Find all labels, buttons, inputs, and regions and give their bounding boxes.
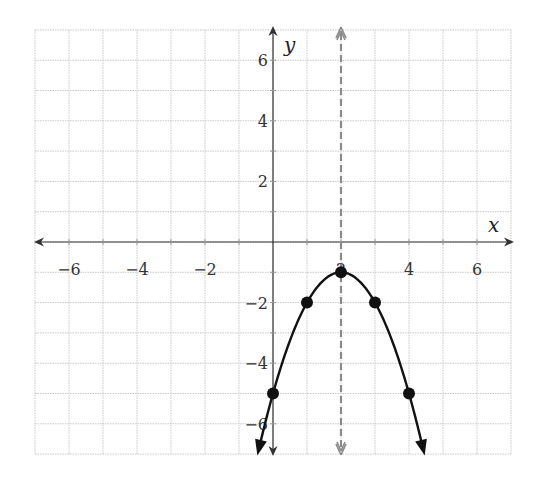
x-tick-label: −6 [57,260,81,279]
data-point [369,297,381,309]
coordinate-plane: −6−4−2246642−2−4−6 x y [0,0,539,482]
y-tick-label: 6 [258,51,268,70]
data-point [301,297,313,309]
y-tick-label: −2 [244,294,268,313]
y-axis-label: y [283,33,296,57]
x-tick-label: 4 [404,260,414,279]
parabola-arrow-icon [255,439,267,456]
parabola-arrow-icon [415,439,427,456]
x-axis-label: x [488,213,499,237]
x-tick-label: −2 [193,260,217,279]
y-tick-label: −4 [244,354,268,373]
data-point [267,388,279,400]
y-tick-label: 2 [258,172,268,191]
data-point [335,266,347,278]
x-tick-label: 6 [472,260,482,279]
x-tick-label: −4 [125,260,149,279]
data-point [403,388,415,400]
y-tick-label: 4 [258,112,268,131]
